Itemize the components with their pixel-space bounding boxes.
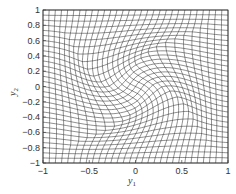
x-tick-label: 1 [225,166,230,176]
deformed-grid-chart: 10.80.60.40.20−0.2−0.4−0.6−0.8−1 −1−0.50… [0,0,236,194]
x-tick-label: 0 [133,166,138,176]
mesh-line [43,72,228,101]
y-tick-label: −0.4 [22,112,40,122]
x-tick-label: −1 [38,166,48,176]
deformed-mesh [43,10,228,163]
y-tick-label: 0.4 [27,51,40,61]
y-tick-label: 0.8 [27,20,40,30]
x-tick-label: −0.5 [80,166,98,176]
y-tick-label: 0 [35,82,40,92]
mesh-line [221,10,222,163]
y-tick-label: 0.6 [27,36,40,46]
x-axis-label: y1 [127,175,136,188]
mesh-line [43,15,228,16]
mesh-line [43,152,228,154]
y-axis-label: y2 [7,88,20,97]
y-tick-label: 1 [35,5,40,15]
mesh-line [215,10,217,163]
mesh-line [43,19,228,21]
y-tick-label: −0.6 [22,127,40,137]
mesh-line [43,126,228,137]
y-axis-ticks: 10.80.60.40.20−0.2−0.4−0.6−0.8−1 [22,5,46,168]
mesh-line [49,10,50,163]
y-tick-label: 0.2 [27,66,40,76]
x-axis-ticks: −1−0.500.51 [38,160,231,176]
mesh-line [43,158,228,159]
y-tick-label: −0.2 [22,97,40,107]
mesh-line [43,35,228,46]
x-tick-label: 0.5 [175,166,188,176]
y-tick-label: −0.8 [22,143,40,153]
mesh-line [54,10,56,163]
